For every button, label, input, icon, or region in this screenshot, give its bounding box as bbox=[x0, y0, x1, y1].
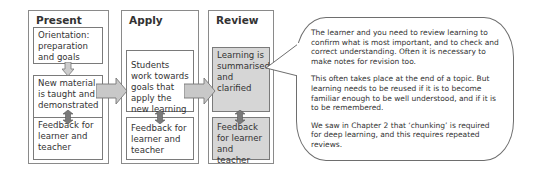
panel-title-review: Review bbox=[216, 14, 258, 26]
callout-paragraph: This often takes place at the end of a t… bbox=[311, 74, 501, 112]
double-arrow-icon bbox=[154, 110, 166, 124]
orientation-box: Orientation: preparation and goals bbox=[33, 27, 103, 64]
callout-paragraph: We saw in Chapter 2 that ‘chunking’ is r… bbox=[311, 121, 501, 150]
double-arrow-icon bbox=[234, 110, 246, 124]
callout-tail bbox=[265, 40, 305, 80]
right-arrow-icon bbox=[96, 78, 128, 104]
panel-title-apply: Apply bbox=[129, 14, 163, 26]
review-panel: Review Learning is summarised and clarif… bbox=[208, 10, 274, 164]
panel-title-present: Present bbox=[36, 14, 82, 26]
double-arrow-icon bbox=[62, 110, 74, 124]
callout-paragraph: The learner and you need to review learn… bbox=[311, 28, 501, 66]
review-callout: The learner and you need to review learn… bbox=[296, 17, 514, 161]
right-arrow-icon bbox=[184, 78, 216, 104]
down-arrow-icon bbox=[62, 62, 74, 76]
summarised-box: Learning is summarised and clarified bbox=[212, 47, 270, 112]
